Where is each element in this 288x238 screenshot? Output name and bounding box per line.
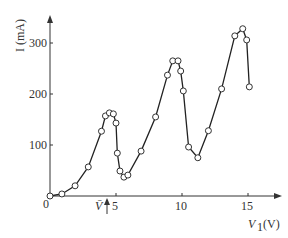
vbar-label: V̄ — [95, 199, 104, 213]
tick-10: 10 — [175, 199, 187, 213]
y-axis-label: I (mA) — [13, 19, 27, 52]
tick-300: 300 — [29, 36, 47, 50]
x-axis-label: V — [248, 217, 257, 231]
tick-200: 200 — [29, 87, 47, 101]
tick-0: 0 — [43, 197, 49, 211]
tick-15: 15 — [241, 199, 253, 213]
data-series — [47, 26, 252, 199]
tick-5: 5 — [112, 199, 118, 213]
tick-100: 100 — [29, 138, 47, 152]
svg-text:(V): (V) — [263, 217, 280, 231]
chart: 0 5 10 15 V̄ 100 200 300 I (mA) V 1 (V) — [0, 0, 288, 238]
